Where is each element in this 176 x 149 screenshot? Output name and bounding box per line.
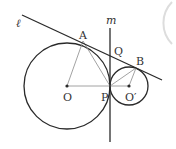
segment-oa (67, 41, 83, 86)
label-b: B (136, 55, 144, 68)
point-o-prime (127, 84, 130, 87)
label-line-l: ℓ (16, 17, 21, 30)
segment-ap (83, 41, 110, 86)
label-q: Q (114, 45, 123, 58)
line-l (22, 15, 162, 80)
label-o: O (63, 91, 72, 104)
label-o-prime: O′ (125, 91, 137, 104)
label-line-m: m (106, 14, 116, 27)
point-o (65, 84, 68, 87)
tangent-circles-diagram: ℓ m A Q B O P O′ (0, 0, 176, 149)
label-p: P (101, 91, 109, 104)
faint-arc (163, 2, 172, 44)
label-a: A (78, 29, 88, 42)
